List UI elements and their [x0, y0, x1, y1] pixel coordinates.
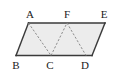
vertex-label-F: F — [60, 9, 74, 20]
vertex-label-D: D — [78, 60, 92, 71]
diagram-canvas: A F E B C D — [0, 0, 122, 75]
vertex-label-C: C — [43, 60, 57, 71]
vertex-label-A: A — [23, 9, 37, 20]
vertex-label-B: B — [9, 60, 23, 71]
parallelogram-fill — [16, 23, 105, 56]
vertex-label-E: E — [97, 9, 111, 20]
